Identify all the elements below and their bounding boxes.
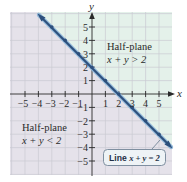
x-tick-label: −5: [18, 98, 29, 109]
callout-equation: x + y = 2: [128, 153, 160, 163]
y-tick-label: −4: [77, 142, 88, 153]
coordinate-plane: y x −5 −4 −3 −2 −1 1 2 3 4 5 5 4 3 2 1 −…: [0, 0, 187, 182]
x-tick-label: −3: [45, 98, 56, 109]
x-axis-label: x: [176, 87, 182, 99]
callout-prefix: Line: [109, 153, 129, 163]
x-tick-label: 5: [157, 98, 162, 109]
lower-region-title: Half-plane: [22, 122, 67, 133]
svg-text:Line x + y = 2: Line x + y = 2: [109, 153, 161, 163]
y-tick-label: 4: [83, 35, 88, 46]
y-tick-label: 2: [83, 62, 88, 73]
x-tick-label: 4: [143, 98, 148, 109]
x-tick-label: −4: [32, 98, 43, 109]
y-tick-label: −3: [77, 129, 88, 140]
y-tick-label: 5: [83, 22, 88, 33]
x-tick-label: 3: [130, 98, 135, 109]
upper-region-title: Half-plane: [107, 41, 152, 52]
y-tick-label: −2: [77, 116, 88, 127]
y-tick-label: 1: [83, 75, 88, 86]
x-tick-label: 1: [103, 98, 108, 109]
lower-region-inequality: x + y < 2: [21, 135, 62, 146]
x-tick-label: 2: [116, 98, 121, 109]
y-axis-label: y: [88, 0, 94, 12]
graph-figure: y x −5 −4 −3 −2 −1 1 2 3 4 5 5 4 3 2 1 −…: [0, 0, 187, 182]
x-tick-label: −2: [59, 98, 70, 109]
y-tick-label: −5: [77, 156, 88, 167]
y-tick-label: −1: [77, 102, 88, 113]
y-tick-label: 3: [83, 49, 88, 60]
upper-region-inequality: x + y > 2: [106, 54, 147, 65]
